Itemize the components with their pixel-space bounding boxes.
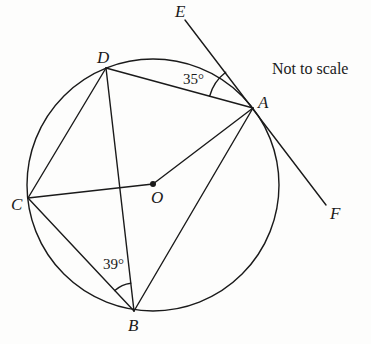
- segment-CB: [28, 198, 134, 311]
- angle-label-35: 35°: [183, 71, 204, 87]
- segment-DA: [106, 68, 253, 108]
- tangent-EF: [185, 20, 326, 205]
- center-point-O: [150, 181, 156, 187]
- angle-label-39: 39°: [103, 256, 124, 272]
- label-A: A: [257, 93, 269, 112]
- segment-DB: [106, 68, 134, 311]
- segment-CO: [28, 184, 153, 198]
- label-F: F: [329, 204, 341, 223]
- label-E: E: [174, 2, 186, 21]
- label-O: O: [151, 188, 163, 207]
- label-D: D: [96, 48, 110, 67]
- angle-arc-CBD: [115, 283, 131, 290]
- segment-OA: [153, 108, 253, 184]
- segment-DC: [28, 68, 106, 198]
- label-C: C: [11, 195, 23, 214]
- label-B: B: [128, 316, 139, 335]
- angle-arc-DAE: [210, 72, 226, 96]
- not-to-scale-note: Not to scale: [272, 60, 348, 77]
- circle-theorem-diagram: E D A C O F B 35° 39° Not to scale: [0, 0, 371, 344]
